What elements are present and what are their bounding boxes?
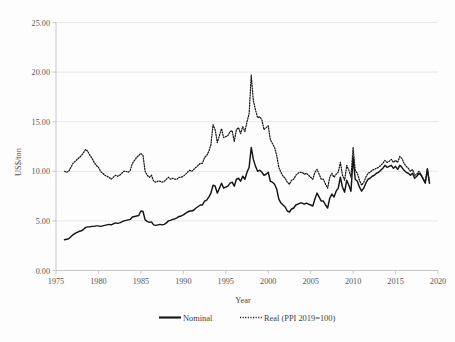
- x-tick-label: 1980: [90, 277, 106, 286]
- chart-figure: 0.005.0010.0015.0020.0025.00 19751980198…: [0, 0, 455, 342]
- x-tick-labels: 1975198019851990199520002005201020152020: [48, 277, 446, 286]
- x-tick-label: 1995: [218, 277, 234, 286]
- legend-label-nominal: Nominal: [183, 314, 213, 323]
- axis-lines: [56, 23, 438, 271]
- x-tick-label: 2015: [387, 277, 403, 286]
- x-tick-label: 2005: [302, 277, 318, 286]
- y-tick-label: 5.00: [36, 217, 50, 226]
- y-tick-label: 10.00: [32, 167, 50, 176]
- data-series-layer: [64, 75, 429, 240]
- x-tick-label: 1990: [175, 277, 191, 286]
- x-tick-marks: [56, 271, 438, 275]
- y-tick-label: 25.00: [32, 19, 50, 28]
- y-tick-label: 20.00: [32, 68, 50, 77]
- legend-label-real: Real (PPI 2019=100): [264, 314, 335, 323]
- line-chart: 0.005.0010.0015.0020.0025.00 19751980198…: [0, 0, 455, 342]
- x-axis-title: Year: [235, 296, 251, 305]
- x-tick-label: 1975: [48, 277, 64, 286]
- x-tick-label: 1985: [133, 277, 149, 286]
- y-tick-label: 15.00: [32, 118, 50, 127]
- series-line-nominal: [64, 147, 429, 239]
- y-axis-title: US$/ton: [14, 147, 23, 176]
- y-tick-labels: 0.005.0010.0015.0020.0025.00: [32, 19, 50, 276]
- x-tick-label: 2000: [260, 277, 276, 286]
- x-tick-label: 2020: [430, 277, 446, 286]
- x-tick-label: 2010: [345, 277, 361, 286]
- y-tick-marks: [53, 23, 57, 271]
- chart-legend: Nominal Real (PPI 2019=100): [159, 314, 335, 323]
- y-tick-label: 0.00: [36, 267, 50, 276]
